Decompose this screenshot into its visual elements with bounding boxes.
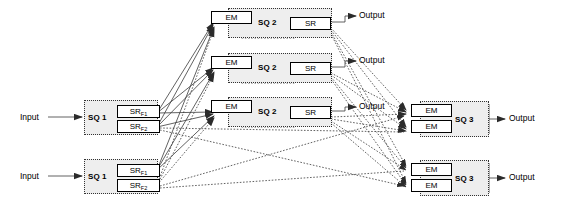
sq1-top-unit-srf1: SRF1 <box>117 105 160 118</box>
sq2-2-label: SQ 2 <box>258 63 277 72</box>
sq2-3-unit-sr: SR <box>290 106 331 119</box>
sq3-bottom-output-label: Output <box>509 172 535 182</box>
sq2-3-label: SQ 2 <box>258 107 277 116</box>
sq1-top-srf1-base: SR <box>130 107 141 116</box>
sq1-bottom-unit-srf1: SRF1 <box>117 164 160 177</box>
sq1-bottom-srf2-sub: F2 <box>141 185 147 191</box>
sq1-top-srf2-base: SR <box>130 122 141 131</box>
sq3-top-output-label: Output <box>509 113 535 123</box>
sq1-top-unit-srf2: SRF2 <box>117 120 160 133</box>
sq2-1-unit-sr: SR <box>290 17 331 30</box>
sq2-1-unit-em: EM <box>211 11 252 24</box>
input-label-top: Input <box>20 112 39 122</box>
sq2-2-unit-em: EM <box>211 56 252 69</box>
sq2-3-unit-em: EM <box>211 100 252 113</box>
sq2-2-unit-sr: SR <box>290 62 331 75</box>
sq1-top-srf2-sub: F2 <box>141 126 147 132</box>
sq3-top-label: SQ 3 <box>455 115 474 124</box>
sq1-bottom-srf1-base: SR <box>130 166 141 175</box>
sq2-1-label: SQ 2 <box>258 18 277 27</box>
input-label-bottom: Input <box>20 171 39 181</box>
sq1-bottom-label: SQ 1 <box>88 172 107 181</box>
sq3-bottom-label: SQ 3 <box>455 174 474 183</box>
sq2-1-output-label: Output <box>359 10 385 20</box>
sq1-bottom-srf2-base: SR <box>130 181 141 190</box>
sq1-bottom-unit-srf2: SRF2 <box>117 179 160 192</box>
sq3-bottom-unit-em2: EM <box>411 179 452 192</box>
diagram-canvas: SQ 1 SRF1 SRF2 Input SQ 1 SRF1 SRF2 Inpu… <box>0 0 562 206</box>
sq1-top-srf1-sub: F1 <box>141 111 147 117</box>
sq1-bottom-srf1-sub: F1 <box>141 170 147 176</box>
sq2-2-output-label: Output <box>359 55 385 65</box>
sq3-bottom-unit-em1: EM <box>411 163 452 176</box>
sq3-top-unit-em1: EM <box>411 104 452 117</box>
sq1-top-label: SQ 1 <box>88 113 107 122</box>
sq3-top-unit-em2: EM <box>411 120 452 133</box>
sq2-3-output-label: Output <box>359 101 385 111</box>
